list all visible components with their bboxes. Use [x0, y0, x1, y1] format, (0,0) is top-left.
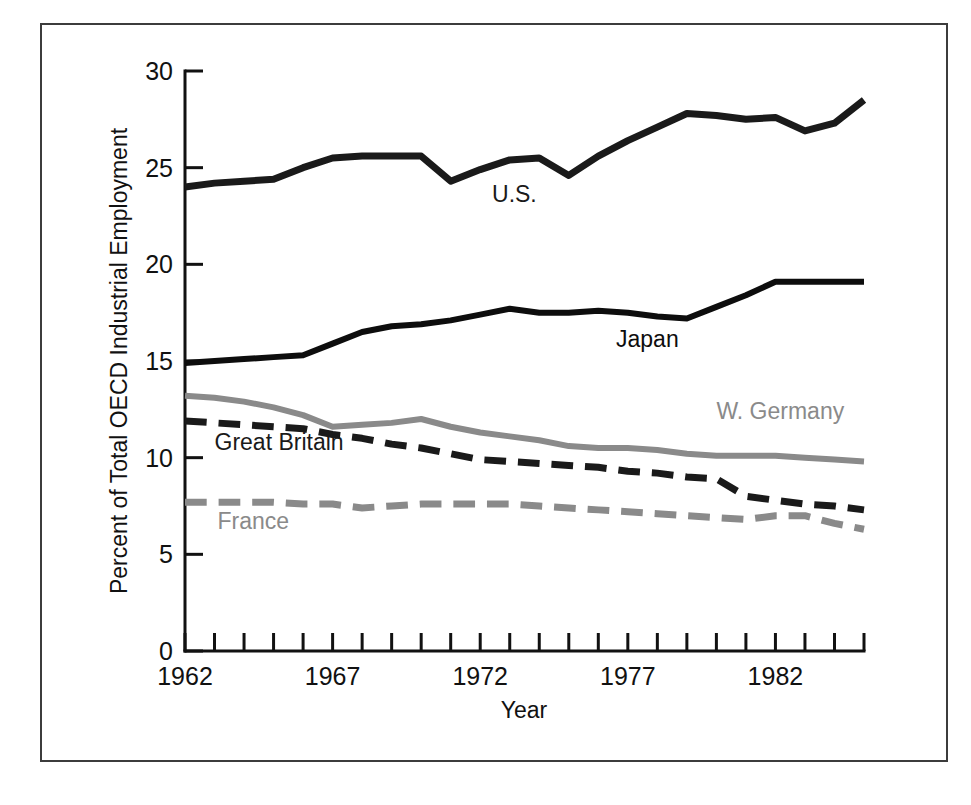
- y-axis-title: Percent of Total OECD Industrial Employm…: [106, 127, 132, 594]
- x-tick-label: 1967: [305, 662, 361, 690]
- x-tick-label-group: 19621967197219771982: [157, 662, 803, 690]
- x-tick-label: 1972: [452, 662, 508, 690]
- y-tick-label: 30: [145, 57, 173, 85]
- y-tick-label: 0: [159, 637, 173, 665]
- x-tick-label: 1962: [157, 662, 213, 690]
- series-line-u-s: [185, 100, 864, 187]
- series-label-france: France: [217, 508, 289, 534]
- line-chart: 051015202530 19621967197219771982 U.S.Ja…: [0, 0, 971, 805]
- x-tick-group: [185, 633, 864, 651]
- y-tick-label: 20: [145, 250, 173, 278]
- y-tick-label: 10: [145, 444, 173, 472]
- y-tick-label: 25: [145, 154, 173, 182]
- y-tick-label-group: 051015202530: [145, 57, 173, 665]
- series-label-u-s: U.S.: [492, 181, 537, 207]
- series-label-group: U.S.JapanW. GermanyGreat BritainFrance: [215, 181, 845, 534]
- series-label-great-britain: Great Britain: [215, 429, 344, 455]
- y-tick-label: 5: [159, 540, 173, 568]
- series-line-japan: [185, 282, 864, 363]
- series-label-w-germany: W. Germany: [716, 398, 844, 424]
- x-axis-title: Year: [501, 697, 548, 723]
- y-tick-label: 15: [145, 347, 173, 375]
- series-group: [185, 100, 864, 529]
- series-label-japan: Japan: [616, 326, 679, 352]
- x-tick-label: 1982: [748, 662, 804, 690]
- x-tick-label: 1977: [600, 662, 656, 690]
